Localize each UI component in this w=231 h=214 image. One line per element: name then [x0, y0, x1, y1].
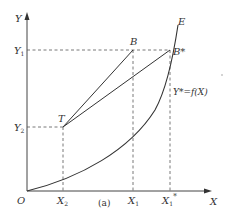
y-axis-arrow-icon [25, 12, 30, 20]
x1-label: X1 [127, 195, 139, 207]
curve-equation-label: Y*=f(X) [173, 87, 208, 97]
x2-label: X2 [56, 195, 68, 207]
point-t-label: T [58, 113, 66, 124]
figure-caption: (a) [98, 198, 110, 208]
diagram-canvas: Y X O Y1 Y2 X2 X1 X1* T B B* E Y*=f(X) (… [0, 0, 231, 214]
point-b-label: B [129, 36, 137, 47]
origin-label: O [17, 195, 25, 206]
point-b-star-label: B* [172, 46, 185, 57]
line-t-b [63, 50, 133, 127]
x-axis-arrow-icon [204, 189, 212, 194]
x-axis-label: X [209, 196, 218, 207]
x1-star-label: X1* [161, 192, 177, 207]
stray-dot [221, 74, 222, 75]
y2-label: Y2 [14, 122, 25, 134]
y-axis-label: Y [15, 13, 23, 24]
point-e-label: E [177, 16, 186, 27]
y1-label: Y1 [14, 45, 24, 57]
line-t-b-star [63, 50, 170, 127]
